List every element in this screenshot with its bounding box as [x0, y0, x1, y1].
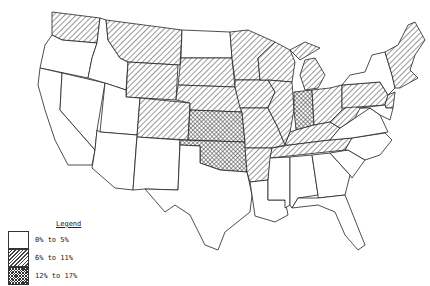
state-sd	[178, 58, 235, 87]
legend-label: 6% to 11%	[35, 254, 73, 262]
state-pa	[342, 82, 388, 108]
state-ms	[268, 157, 290, 208]
legend-label: 12% to 17%	[35, 272, 77, 280]
legend-swatch-hatch-icon	[8, 249, 29, 267]
state-nd	[181, 30, 232, 58]
legend-swatch-crosshatch-icon	[8, 267, 29, 285]
legend-swatch-blank-icon	[8, 231, 29, 249]
legend-title: Legend	[56, 220, 81, 228]
state-in	[294, 90, 314, 130]
legend-item-mid: 6% to 11%	[8, 249, 128, 268]
legend-item-low: 0% to 5%	[8, 231, 128, 250]
state-ks	[188, 110, 245, 142]
legend-item-high: 12% to 17%	[8, 267, 128, 286]
state-az	[92, 130, 137, 190]
state-co	[137, 98, 190, 140]
state-fl	[292, 195, 365, 250]
state-wy	[126, 62, 178, 100]
state-nm	[133, 137, 180, 190]
legend-label: 0% to 5%	[35, 236, 69, 244]
state-ia	[235, 80, 275, 108]
state-mi	[290, 42, 325, 90]
